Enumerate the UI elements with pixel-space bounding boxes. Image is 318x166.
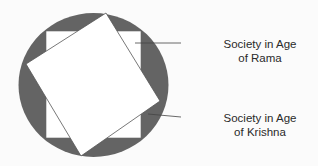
label-rama-line2: of Rama <box>210 51 310 65</box>
label-rama-line1: Society in Age <box>210 37 310 51</box>
label-krishna-line1: Society in Age <box>210 111 310 125</box>
diagram-canvas <box>0 0 318 166</box>
label-krishna-line2: of Krishna <box>210 125 310 139</box>
label-society-age-of-krishna: Society in Age of Krishna <box>210 111 310 139</box>
label-society-age-of-rama: Society in Age of Rama <box>210 37 310 65</box>
